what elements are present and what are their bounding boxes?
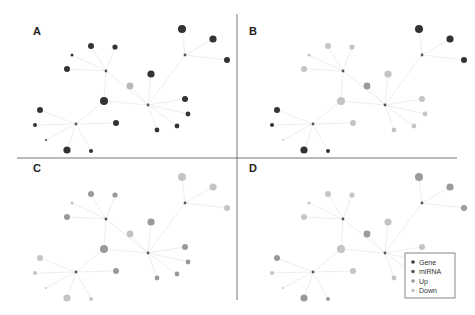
edge bbox=[76, 124, 91, 151]
node bbox=[412, 124, 417, 129]
edge bbox=[343, 195, 352, 219]
node bbox=[112, 44, 117, 49]
figure: ABCD GenemiRNAUpDown bbox=[0, 0, 475, 315]
node bbox=[100, 245, 108, 253]
gene-hub-node bbox=[147, 252, 150, 255]
gene-hub-node bbox=[421, 202, 424, 205]
legend-mirna-label: miRNA bbox=[419, 268, 441, 275]
edge bbox=[385, 247, 422, 253]
gene-hub-node bbox=[147, 104, 150, 107]
legend-gene-label: Gene bbox=[419, 259, 436, 266]
edge bbox=[76, 123, 116, 124]
node bbox=[45, 139, 47, 141]
node bbox=[274, 255, 280, 261]
gene-hub-node bbox=[105, 70, 108, 73]
edge bbox=[313, 124, 328, 151]
edge bbox=[106, 71, 148, 105]
node bbox=[178, 173, 186, 181]
edge bbox=[148, 99, 185, 105]
edge bbox=[148, 253, 157, 278]
edge bbox=[40, 110, 76, 124]
node bbox=[282, 139, 284, 141]
node bbox=[337, 245, 345, 253]
edge bbox=[40, 258, 76, 272]
node bbox=[224, 205, 230, 211]
gene-hub-node bbox=[75, 123, 78, 126]
node bbox=[64, 66, 70, 72]
edge bbox=[106, 47, 115, 71]
gene-hub-node bbox=[184, 54, 187, 57]
node bbox=[224, 57, 230, 63]
node bbox=[100, 97, 108, 105]
edge bbox=[148, 222, 151, 253]
node bbox=[308, 202, 311, 205]
node bbox=[364, 231, 371, 238]
node bbox=[392, 128, 397, 133]
edge bbox=[313, 249, 341, 272]
node bbox=[337, 97, 345, 105]
node bbox=[127, 231, 134, 238]
node bbox=[364, 83, 371, 90]
gene-hub-node bbox=[384, 104, 387, 107]
gene-hub-node bbox=[312, 271, 315, 274]
edge bbox=[104, 249, 148, 253]
edge bbox=[385, 222, 388, 253]
node bbox=[113, 268, 119, 274]
node bbox=[155, 128, 160, 133]
edge bbox=[313, 272, 328, 299]
edge bbox=[76, 272, 91, 299]
node bbox=[446, 35, 453, 42]
node bbox=[33, 271, 37, 275]
node bbox=[419, 244, 425, 250]
node bbox=[300, 146, 307, 153]
edge bbox=[304, 217, 343, 219]
node bbox=[71, 54, 74, 57]
node bbox=[423, 112, 428, 117]
node bbox=[274, 107, 280, 113]
legend-gene-marker bbox=[411, 260, 415, 264]
edge bbox=[272, 272, 313, 273]
node bbox=[384, 70, 391, 77]
node bbox=[147, 218, 154, 225]
edge bbox=[422, 39, 450, 55]
panel-a: A bbox=[33, 25, 230, 154]
edge bbox=[343, 71, 385, 105]
edge bbox=[343, 47, 352, 71]
edge bbox=[422, 203, 464, 208]
edge bbox=[185, 203, 227, 208]
edge bbox=[341, 249, 385, 253]
gene-hub-node bbox=[342, 70, 345, 73]
edge bbox=[313, 271, 353, 272]
edge bbox=[385, 203, 422, 253]
panel-label: C bbox=[33, 162, 41, 174]
node bbox=[209, 35, 216, 42]
edge bbox=[148, 203, 185, 253]
network-figure: ABCD GenemiRNAUpDown bbox=[0, 0, 475, 315]
edge bbox=[104, 219, 106, 249]
node bbox=[89, 149, 93, 153]
edge bbox=[35, 272, 76, 273]
node bbox=[415, 25, 423, 33]
edge bbox=[67, 217, 106, 219]
node bbox=[45, 287, 47, 289]
edge bbox=[277, 110, 313, 124]
node bbox=[37, 255, 43, 261]
node bbox=[186, 112, 191, 117]
node bbox=[325, 191, 331, 197]
gene-hub-node bbox=[105, 218, 108, 221]
legend-down-label: Down bbox=[419, 287, 437, 294]
edge bbox=[106, 219, 148, 253]
panel-label: B bbox=[249, 25, 257, 37]
edge bbox=[185, 39, 213, 55]
edge bbox=[422, 55, 464, 60]
node bbox=[301, 66, 307, 72]
node bbox=[186, 260, 191, 265]
node bbox=[300, 294, 307, 301]
node bbox=[175, 124, 180, 129]
node bbox=[182, 96, 188, 102]
node bbox=[282, 287, 284, 289]
gene-hub-node bbox=[75, 271, 78, 274]
node bbox=[350, 268, 356, 274]
panel-b: B bbox=[249, 25, 467, 154]
node bbox=[301, 214, 307, 220]
